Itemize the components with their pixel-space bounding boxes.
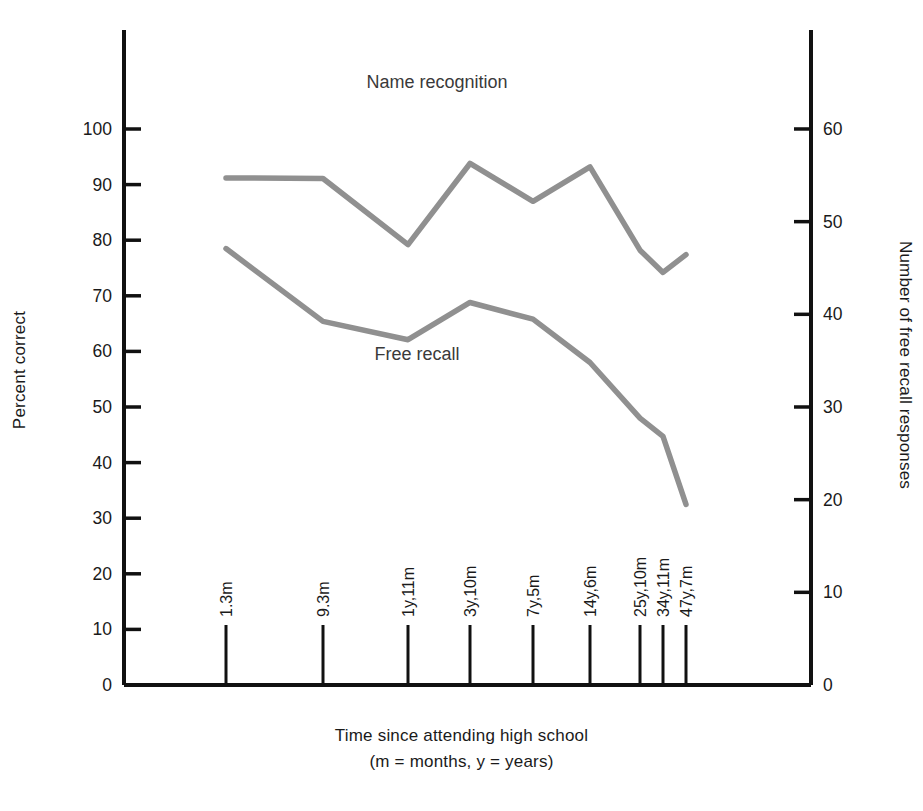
y-tick-label-right: 30 (823, 397, 843, 417)
y-tick-label-left: 40 (93, 453, 113, 473)
y-tick-label-left: 20 (93, 564, 113, 584)
y-tick-label-left: 10 (93, 619, 113, 639)
y-tick-label-left: 100 (83, 119, 112, 139)
x-tick-label: 9.3m (315, 581, 332, 617)
y-tick-label-left: 60 (93, 341, 113, 361)
series-annotation: Free recall (374, 344, 459, 364)
x-tick-label: 7y,5m (525, 575, 542, 617)
y-tick-label-right: 60 (823, 119, 843, 139)
x-tick-label: 34y,11m (655, 558, 672, 617)
y-tick-label-left: 80 (93, 230, 113, 250)
x-tick-label: 1.3m (218, 581, 235, 617)
series-annotation: Name recognition (366, 72, 507, 92)
y-tick-label-left: 70 (93, 286, 113, 306)
y-tick-label-right: 0 (823, 675, 833, 695)
y-tick-label-right: 40 (823, 304, 843, 324)
y-tick-label-left: 50 (93, 397, 113, 417)
chart-figure: Percent correct Number of free recall re… (0, 0, 923, 811)
y-tick-label-left: 90 (93, 175, 113, 195)
series-line (226, 249, 686, 505)
y-tick-label-right: 50 (823, 212, 843, 232)
x-tick-label: 3y,10m (462, 566, 479, 617)
x-tick-label: 1y,11m (400, 567, 417, 617)
y-tick-label-left: 30 (93, 508, 113, 528)
series-line (226, 163, 686, 272)
x-tick-label: 47y,7m (678, 566, 695, 617)
x-tick-label: 14y,6m (582, 566, 599, 617)
y-tick-label-left: 0 (102, 675, 112, 695)
plot-area: 010203040506070809010001020304050601.3m9… (0, 0, 923, 811)
y-tick-label-right: 20 (823, 490, 843, 510)
y-tick-label-right: 10 (823, 582, 843, 602)
x-tick-label: 25y,10m (632, 557, 649, 617)
